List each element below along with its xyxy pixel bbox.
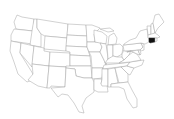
state-maine xyxy=(153,14,164,33)
states-layer xyxy=(10,14,164,113)
state-north-dakota xyxy=(67,24,87,36)
state-new-mexico xyxy=(47,66,66,88)
state-wisconsin xyxy=(94,30,107,44)
state-washington xyxy=(14,15,34,31)
state-wyoming xyxy=(44,36,67,51)
state-iowa xyxy=(87,42,102,52)
state-connecticut xyxy=(149,38,155,43)
state-mississippi xyxy=(101,69,108,86)
state-arizona xyxy=(28,64,49,88)
state-arkansas xyxy=(92,68,103,79)
state-florida xyxy=(111,82,137,108)
state-south-dakota xyxy=(66,35,87,47)
state-ohio xyxy=(113,44,123,57)
state-rhode-island xyxy=(155,38,157,42)
state-montana xyxy=(37,19,68,38)
state-colorado xyxy=(49,52,70,67)
state-kansas xyxy=(70,55,91,66)
state-new-york xyxy=(124,29,149,45)
us-map xyxy=(0,0,174,119)
